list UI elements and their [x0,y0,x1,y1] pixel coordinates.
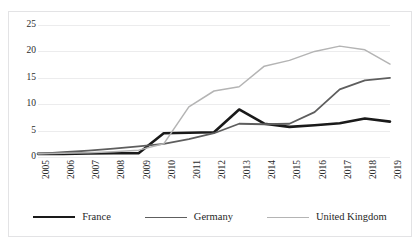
x-axis-tick-label: 2011 [193,160,203,179]
y-axis-tick-label: 5 [31,126,36,136]
chart-legend: FranceGermanyUnited Kingdom [8,206,412,228]
legend-line-swatch [267,217,309,218]
x-axis-tick-label: 2010 [168,160,178,179]
legend-label: United Kingdom [316,212,387,223]
y-axis-tick-label: 15 [27,73,37,83]
x-axis-tick-label: 2016 [319,160,329,179]
y-axis-tick-label: 20 [27,47,37,57]
x-axis-tick-label: 2005 [42,160,52,179]
x-axis-tick-label: 2014 [268,160,278,179]
x-axis-tick-label: 2008 [117,160,127,179]
y-axis-tick-label: 0 [31,152,36,162]
plot-area [38,25,390,157]
x-axis-tick-label: 2015 [293,160,303,179]
legend-label: France [82,212,111,223]
x-axis-tick-label: 2006 [67,160,77,179]
series-line [38,78,390,154]
x-axis-tick-label: 2017 [344,160,354,179]
x-axis-tick-labels: 2005200620072008200920102011201220132014… [38,160,390,202]
series-lines [38,25,390,157]
legend-line-swatch [145,217,187,218]
x-axis-tick-label: 2018 [369,160,379,179]
x-axis-tick-label: 2013 [243,160,253,179]
legend-item[interactable]: Germany [145,212,233,223]
series-line [38,109,390,153]
gridline [38,157,390,158]
chart-title [0,0,420,6]
y-axis-tick-labels: 0510152025 [8,25,36,157]
line-chart-figure: 0510152025 20052006200720082009201020112… [0,0,420,244]
x-axis-tick-label: 2012 [218,160,228,179]
x-axis-tick-label: 2007 [92,160,102,179]
legend-label: Germany [194,212,233,223]
legend-line-swatch [33,216,75,218]
y-axis-tick-label: 25 [27,20,37,30]
legend-item[interactable]: United Kingdom [267,212,387,223]
x-axis-tick-label: 2009 [143,160,153,179]
x-axis-tick-label: 2019 [394,160,404,179]
legend-item[interactable]: France [33,212,111,223]
y-axis-tick-label: 10 [27,99,37,109]
series-line [38,46,390,154]
